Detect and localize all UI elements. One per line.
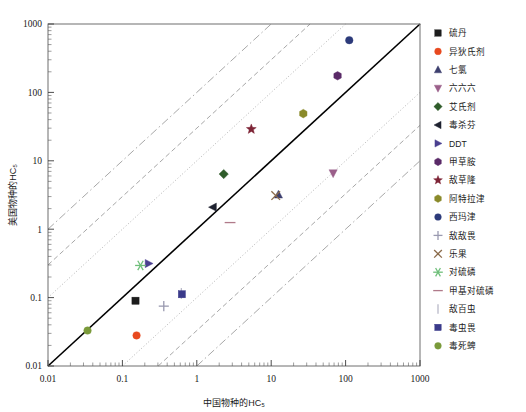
legend-item-16[interactable]: 毒虫畏	[435, 322, 476, 333]
legend-marker-12	[434, 250, 442, 258]
reference-line-1-30	[158, 125, 420, 366]
legend-label-2: 七氯	[449, 64, 467, 75]
legend-item-12[interactable]: 乐果	[434, 248, 467, 259]
legend-item-14[interactable]: 甲基对硫磷	[433, 285, 494, 296]
legend-marker-9	[435, 195, 442, 203]
reference-line-10-1	[48, 24, 346, 298]
data-point-5	[208, 203, 216, 211]
data-point-9	[300, 109, 307, 118]
legend-label-11: 敌敌畏	[449, 230, 476, 241]
legend-label-10: 西玛津	[449, 212, 476, 222]
legend-item-8[interactable]: 敌草隆	[434, 174, 476, 185]
y-tick-label: 100	[28, 88, 43, 98]
legend-marker-3	[434, 85, 441, 92]
x-tick-label: 1	[194, 374, 199, 384]
data-point-16	[178, 291, 185, 298]
y-axis-title: 美国物种的HC₅	[7, 164, 18, 226]
legend-marker-7	[435, 158, 442, 166]
legend-label-15: 敌百虫	[449, 303, 476, 314]
legend-marker-2	[434, 66, 441, 73]
legend-item-3[interactable]: 六六六	[434, 82, 476, 93]
x-axis-title: 中国物种的HC₅	[203, 397, 265, 408]
data-point-6	[145, 259, 153, 267]
legend-label-3: 六六六	[449, 82, 476, 93]
legend-label-5: 毒杀芬	[449, 119, 476, 130]
data-points-group	[84, 36, 353, 339]
reference-line-1-1	[48, 24, 420, 366]
legend-label-13: 对硫磷	[449, 266, 476, 277]
legend-label-9: 阿特拉津	[449, 193, 485, 204]
legend-marker-0	[435, 30, 441, 36]
legend-marker-1	[435, 48, 442, 55]
legend-marker-11	[434, 231, 443, 240]
legend-marker-6	[435, 140, 442, 147]
scatter-plot: 0.010.111010010000.010.11101001000 中国物种的…	[0, 0, 526, 412]
data-point-7	[334, 71, 341, 80]
legend-item-13[interactable]: 对硫磷	[433, 266, 476, 277]
legend-marker-17	[435, 342, 442, 349]
legend-marker-16	[435, 324, 441, 330]
data-point-1	[133, 332, 141, 340]
data-point-3	[329, 170, 337, 178]
reference-lines-group	[48, 24, 420, 366]
x-tick-label: 0.01	[40, 374, 57, 384]
legend-item-9[interactable]: 阿特拉津	[435, 193, 485, 204]
data-point-0	[132, 297, 139, 304]
x-tick-label: 0.1	[116, 374, 128, 384]
y-tick-label: 10	[33, 156, 43, 166]
legend-item-2[interactable]: 七氯	[434, 64, 467, 75]
legend-item-17[interactable]: 毒死蜱	[435, 340, 476, 351]
legend-label-17: 毒死蜱	[449, 340, 476, 351]
reference-line-1-100	[197, 161, 420, 366]
legend-item-7[interactable]: 甲草胺	[435, 156, 476, 167]
legend-marker-8	[434, 176, 443, 184]
legend-label-0: 硫丹	[449, 27, 467, 38]
y-tick-label: 0.1	[30, 293, 42, 303]
legend-item-15[interactable]: 敌百虫	[438, 303, 476, 314]
legend-label-6: DDT	[449, 139, 467, 149]
data-point-2	[274, 190, 282, 198]
legend-label-1: 异狄氏剂	[449, 46, 485, 57]
legend-marker-4	[434, 102, 442, 110]
legend-item-4[interactable]: 艾氏剂	[434, 101, 476, 112]
data-point-17	[84, 327, 92, 335]
data-point-13	[135, 261, 146, 270]
legend-marker-5	[434, 121, 441, 128]
legend-item-10[interactable]: 西玛津	[435, 212, 476, 222]
data-point-4	[219, 169, 228, 178]
y-tick-label: 1000	[23, 19, 42, 29]
legend-label-7: 甲草胺	[449, 156, 476, 167]
legend-item-6[interactable]: DDT	[435, 139, 467, 149]
legend-label-14: 甲基对硫磷	[449, 285, 494, 296]
legend-item-0[interactable]: 硫丹	[435, 27, 467, 38]
reference-line-100-1	[48, 24, 271, 229]
legend-label-12: 乐果	[449, 248, 467, 259]
data-point-8	[246, 124, 256, 133]
legend-marker-13	[433, 268, 443, 276]
y-tick-label: 1	[37, 225, 42, 235]
legend: 硫丹异狄氏剂七氯六六六艾氏剂毒杀芬DDT甲草胺敌草隆阿特拉津西玛津敌敌畏乐果对硫…	[433, 27, 494, 351]
legend-label-8: 敌草隆	[449, 174, 476, 185]
legend-label-4: 艾氏剂	[449, 101, 476, 112]
data-point-11	[159, 301, 169, 311]
x-tick-label: 10	[266, 374, 276, 384]
y-tick-label: 0.01	[25, 361, 42, 371]
legend-item-5[interactable]: 毒杀芬	[434, 119, 476, 130]
legend-item-11[interactable]: 敌敌畏	[434, 230, 476, 241]
figure-container: 0.010.111010010000.010.11101001000 中国物种的…	[0, 0, 526, 412]
x-tick-label: 100	[338, 374, 353, 384]
x-tick-label: 1000	[411, 374, 430, 384]
reference-line-1-10	[122, 92, 420, 366]
legend-marker-10	[435, 214, 442, 221]
data-point-10	[345, 36, 353, 44]
reference-line-30-1	[48, 24, 310, 265]
legend-label-16: 毒虫畏	[449, 322, 476, 333]
legend-item-1[interactable]: 异狄氏剂	[435, 46, 485, 57]
